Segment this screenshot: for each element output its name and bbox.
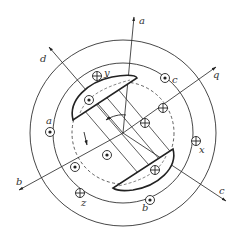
axis-c bbox=[123, 133, 226, 201]
rotor-conductor-dot bbox=[85, 96, 94, 105]
axis-label-q: q bbox=[213, 69, 219, 80]
rotor-conductor-cross bbox=[159, 104, 168, 113]
axis-label-d: d bbox=[40, 53, 46, 64]
south-pole-shoe bbox=[113, 149, 174, 191]
conductor-label-c: c bbox=[172, 74, 178, 85]
conductor-label-x: x bbox=[199, 144, 205, 155]
conductor-c-dot bbox=[161, 74, 170, 83]
conductor-label-a: a bbox=[46, 115, 52, 126]
synchronous-machine-diagram: a d q b c y c a x z b bbox=[0, 0, 235, 240]
conductor-y-cross bbox=[93, 72, 102, 81]
axis-label-c: c bbox=[219, 185, 225, 196]
conductor-a-dot bbox=[46, 128, 55, 137]
conductor-label-z: z bbox=[80, 197, 87, 208]
conductor-label-b: b bbox=[142, 202, 148, 213]
rotation-arrow bbox=[84, 132, 87, 145]
rotor-conductor-cross bbox=[151, 166, 160, 175]
conductor-label-y: y bbox=[103, 67, 110, 78]
north-pole-shoe bbox=[72, 75, 137, 120]
rotor-conductor-dot bbox=[103, 151, 112, 160]
rotor-conductor-cross bbox=[141, 119, 150, 128]
axes bbox=[19, 17, 226, 201]
axis-label-a: a bbox=[139, 15, 145, 26]
rotor-conductor-dot bbox=[71, 163, 80, 172]
axis-label-b: b bbox=[16, 176, 22, 187]
